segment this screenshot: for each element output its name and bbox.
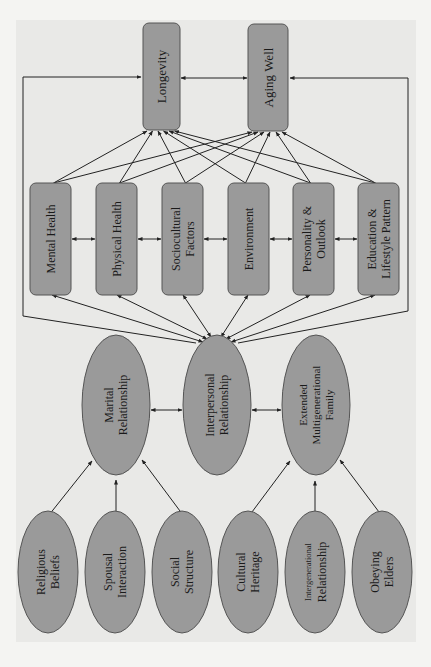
edge-arrow — [120, 132, 259, 183]
extended-label-line: Extended — [297, 384, 309, 426]
personality-label-line: Outlook — [314, 219, 328, 258]
longevity-label: Longevity — [154, 49, 169, 103]
personality-label-line: Personality & — [300, 205, 314, 272]
mental-health-label: Mental Health — [44, 205, 58, 274]
education-label: Education &Lifestyle Pattern — [365, 199, 393, 279]
marital-label-line: Relationship — [116, 375, 130, 436]
intergenerational-label: IntergenerationalRelationship — [303, 542, 329, 603]
environment-label: Environment — [242, 207, 256, 270]
religious-label: ReligiousBeliefs — [34, 549, 62, 595]
spousal-label-line: Spousal — [101, 552, 115, 591]
physical-health-label: Physical Health — [110, 201, 124, 277]
social-label-line: Structure — [182, 550, 196, 594]
mental-health-label-line: Mental Health — [44, 205, 58, 274]
edge-arrow — [231, 295, 375, 342]
marital-label-line: Marital — [102, 387, 116, 423]
education-label-line: Education & — [365, 208, 379, 270]
edge-arrow — [246, 132, 271, 183]
interpersonal-label-line: Interpersonal — [203, 373, 217, 437]
intergenerational-label-line: Intergenerational — [303, 542, 313, 601]
religious-label-line: Beliefs — [48, 555, 62, 589]
sociocultural-label-line: Factors — [183, 221, 197, 257]
cultural-label: CulturalHeritage — [234, 551, 262, 592]
social-label-line: Social — [168, 556, 182, 587]
edge-arrow — [276, 132, 311, 183]
spousal-label-line: Interaction — [115, 546, 129, 598]
cultural-label-line: Cultural — [234, 552, 248, 592]
intergenerational-label-line: Relationship — [315, 542, 329, 603]
edge-arrow — [54, 132, 253, 183]
edge-arrow — [186, 132, 265, 183]
edge-arrow — [183, 295, 211, 337]
cultural-label-line: Heritage — [248, 551, 262, 592]
sociocultural-label-line: Sociocultural — [169, 206, 183, 271]
edge-arrow — [282, 132, 376, 183]
longevity-label-line: Longevity — [154, 49, 169, 103]
physical-health-label-line: Physical Health — [110, 201, 124, 277]
obeying-label-line: Elders — [382, 556, 396, 587]
obeying-label-line: Obeying — [368, 551, 382, 592]
nodes: LongevityAging WellMental HealthPhysical… — [18, 23, 412, 633]
edge-arrow — [54, 131, 148, 183]
edge-arrow — [49, 461, 92, 515]
extended-label-line: Multigenerational — [310, 366, 322, 445]
spousal-label: SpousalInteraction — [101, 546, 129, 598]
longevity-model-diagram: LongevityAging WellMental HealthPhysical… — [0, 0, 431, 667]
aging-well-label-line: Aging Well — [261, 47, 276, 107]
edge-arrow — [142, 460, 183, 515]
religious-label-line: Religious — [34, 549, 48, 595]
edge-arrow — [120, 131, 153, 183]
environment-label-line: Environment — [242, 207, 256, 270]
edge-arrow — [158, 131, 186, 183]
interpersonal-label: InterpersonalRelationship — [203, 373, 231, 437]
aging-well-label: Aging Well — [261, 47, 276, 107]
edge-arrow — [52, 295, 203, 342]
obeying-label: ObeyingElders — [368, 551, 396, 592]
edge-arrow — [221, 295, 248, 337]
edge-arrow — [340, 460, 382, 516]
edge-arrow — [249, 461, 290, 516]
edge-arrow — [226, 295, 310, 339]
education-label-line: Lifestyle Pattern — [379, 199, 393, 279]
extended-label-line: Family — [323, 389, 335, 421]
interpersonal-label-line: Relationship — [217, 375, 231, 436]
